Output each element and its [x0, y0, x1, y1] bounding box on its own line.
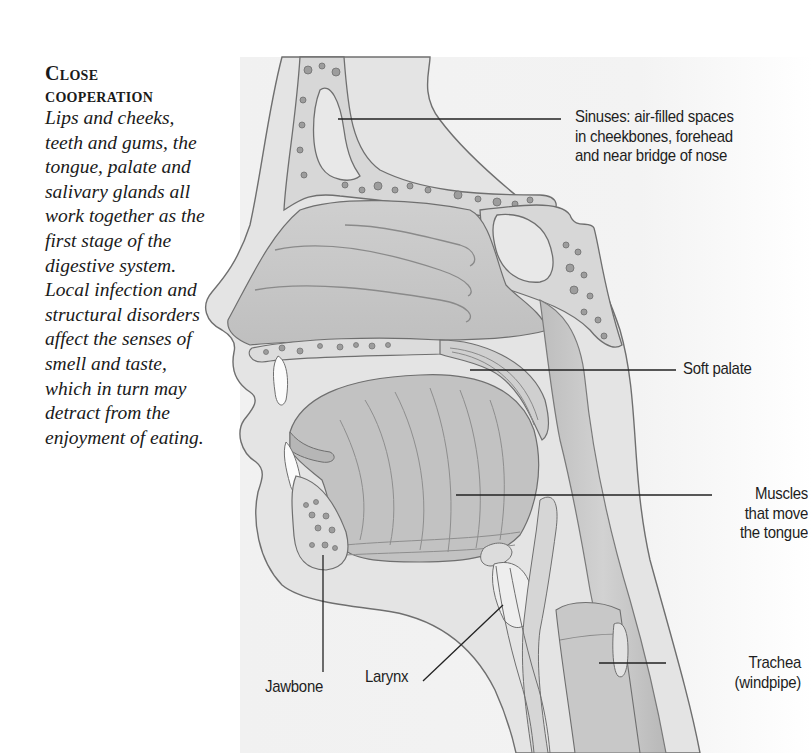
label-sinuses: Sinuses: air-filled spaces in cheekbones…	[575, 107, 734, 166]
label-jawbone: Jawbone	[265, 677, 323, 697]
label-tongue-muscles: Muscles that move the tongue	[720, 484, 808, 543]
label-soft-palate: Soft palate	[683, 359, 752, 379]
label-trachea: Trachea (windpipe)	[713, 653, 801, 692]
label-larynx: Larynx	[365, 667, 408, 687]
